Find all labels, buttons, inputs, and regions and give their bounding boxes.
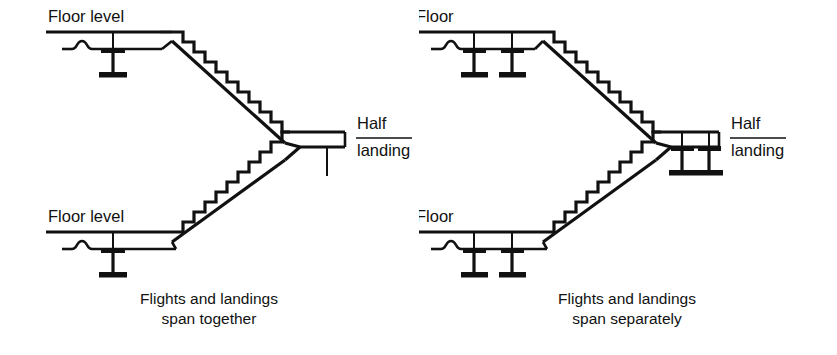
lower-floor-label-left: Floor level <box>48 207 124 225</box>
lower-floor-column-right-2 <box>499 232 526 278</box>
lower-floor-slab-left <box>46 232 176 249</box>
half-landing-label-top-right: Half <box>731 114 761 132</box>
caption-span-together: Flights and landings span together <box>44 289 374 329</box>
half-landing-left <box>285 132 345 176</box>
caption-span-separately: Flights and landings span separately <box>462 289 792 329</box>
upper-floor-slab-left <box>46 32 172 49</box>
lower-flight-steps-right <box>543 132 661 232</box>
lower-flight-steps-left <box>172 132 290 232</box>
upper-floor-label-right: Floor <box>419 7 454 25</box>
upper-floor-label-left: Floor level <box>48 7 124 25</box>
upper-flight-steps-right <box>543 32 661 132</box>
half-landing-label-bottom-left: landing <box>357 141 410 159</box>
lower-floor-column-right-1 <box>461 232 488 278</box>
figure-root: Floor level <box>0 0 837 355</box>
lower-floor-slab-right <box>419 232 547 249</box>
lower-flight-soffit-left <box>172 160 285 242</box>
lower-flight-soffit-right <box>543 160 656 242</box>
half-landing-label-left: Half landing <box>356 114 412 159</box>
half-landing-label-top-left: Half <box>357 114 387 132</box>
upper-flight-soffit-left <box>172 41 285 143</box>
upper-flight-steps-left <box>172 32 290 132</box>
half-landing-label-right: Half landing <box>730 114 786 159</box>
upper-floor-column-left <box>99 32 127 78</box>
half-landing-column-right-1 <box>669 132 696 176</box>
upper-floor-column-right-2 <box>499 32 526 78</box>
lower-floor-column-left <box>99 232 127 278</box>
upper-floor-slab-right <box>419 32 543 49</box>
half-landing-label-bottom-right: landing <box>731 141 784 159</box>
upper-floor-column-right-1 <box>461 32 488 78</box>
upper-flight-soffit-right <box>543 41 656 143</box>
lower-floor-label-right: Floor <box>419 207 454 225</box>
